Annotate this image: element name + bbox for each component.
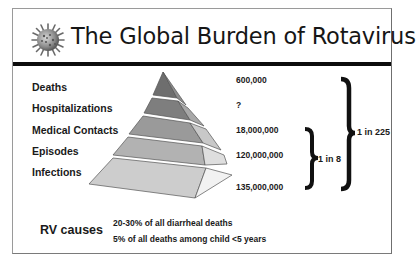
large-brace-icon	[341, 79, 355, 189]
ratio-small: 1 in 8	[318, 154, 341, 164]
rv-fact-diarrheal: 20-30% of all diarrheal deaths	[113, 218, 233, 228]
small-brace-icon	[305, 129, 318, 188]
rv-fact-child-deaths: 5% of all deaths among child <5 years	[113, 234, 266, 244]
rv-causes-heading: RV causes	[40, 223, 103, 237]
ratio-large: 1 in 225	[357, 127, 390, 137]
